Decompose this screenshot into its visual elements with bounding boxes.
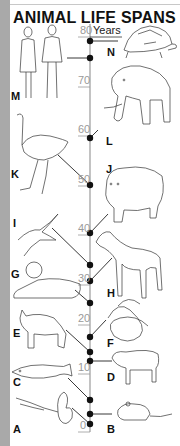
label-J: J [106, 163, 112, 175]
cat-icon [20, 310, 66, 348]
elephant-icon [104, 66, 170, 124]
snake-icon [108, 299, 148, 341]
connector-J [90, 214, 108, 233]
label-B: B [107, 423, 115, 435]
label-K: K [11, 168, 19, 180]
label-C: C [13, 376, 21, 388]
ostrich-icon [17, 114, 68, 194]
connector-C [68, 378, 90, 400]
label-L: L [106, 135, 113, 147]
label-H: H [107, 287, 115, 299]
label-A: A [13, 423, 21, 435]
label-I: I [13, 217, 16, 229]
tortoise-icon [124, 26, 177, 58]
label-M: M [11, 90, 20, 102]
tick-label-50: 50 [78, 173, 90, 185]
tick-label-30: 30 [78, 272, 90, 284]
connector-H [90, 258, 112, 281]
fish-icon [12, 364, 72, 378]
tick-label-60: 60 [78, 123, 90, 135]
albatross-icon [18, 214, 58, 256]
mouse-icon [118, 402, 172, 420]
tick-label-80: 80 [80, 24, 92, 36]
tick-label-20: 20 [78, 312, 90, 324]
lion-icon [14, 262, 81, 298]
tick-label-40: 40 [78, 222, 90, 234]
hippo-icon [106, 167, 164, 222]
connector-F [90, 320, 106, 337]
label-G: G [11, 268, 20, 280]
humans-icon [20, 25, 62, 98]
label-D: D [107, 371, 115, 383]
axis-unit-label: Years [93, 24, 121, 36]
tick-label-70: 70 [78, 74, 90, 86]
sheep-icon [112, 350, 159, 384]
butterfly-icon [16, 392, 72, 424]
tick-label-10: 10 [78, 361, 90, 373]
label-F: F [107, 337, 114, 349]
label-E: E [13, 327, 20, 339]
tick-label-0: 0 [80, 419, 86, 431]
label-N: N [107, 46, 115, 58]
connector-E [66, 330, 90, 352]
